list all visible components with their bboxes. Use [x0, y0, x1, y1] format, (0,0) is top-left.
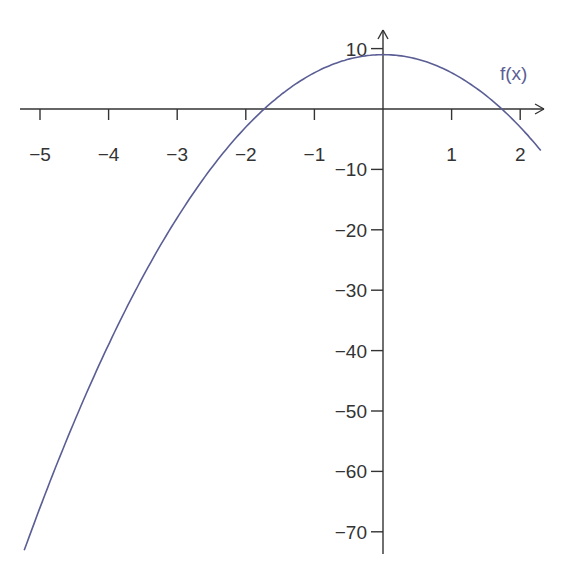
x-tick-label: −3 — [166, 144, 188, 165]
y-tick-label: −10 — [335, 159, 367, 180]
y-tick-label: −70 — [335, 522, 367, 543]
function-curve — [24, 55, 541, 551]
tick-marks — [40, 49, 520, 532]
y-tick-label: −30 — [335, 280, 367, 301]
function-graph: −5−4−3−2−11210−10−20−30−40−50−60−70 f(x) — [0, 0, 566, 572]
x-axis-arrow — [535, 109, 544, 114]
function-label: f(x) — [500, 63, 527, 84]
x-tick-label: −4 — [98, 144, 120, 165]
y-axis-arrow — [383, 30, 388, 39]
y-tick-label: −60 — [335, 461, 367, 482]
axes — [20, 30, 544, 554]
x-tick-label: −1 — [304, 144, 326, 165]
y-tick-label: −40 — [335, 341, 367, 362]
y-tick-label: −50 — [335, 401, 367, 422]
x-tick-label: 2 — [515, 144, 526, 165]
x-axis-arrow — [535, 104, 544, 109]
x-tick-label: −5 — [29, 144, 51, 165]
x-tick-label: 1 — [446, 144, 457, 165]
x-tick-label: −2 — [235, 144, 257, 165]
y-axis-arrow — [378, 30, 383, 39]
y-tick-label: −20 — [335, 220, 367, 241]
